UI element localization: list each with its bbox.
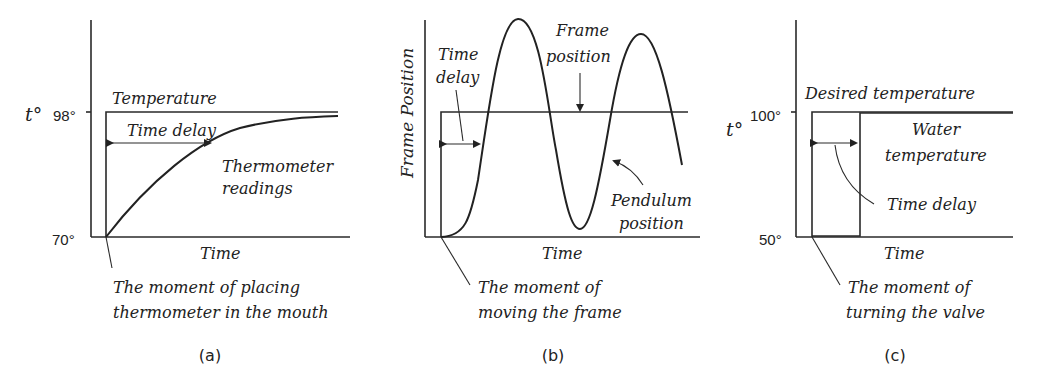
panel-b: Frame Position Time delay Frame position…: [397, 19, 700, 365]
thermometer-label-line2: readings: [222, 179, 293, 198]
time-delay-figure: t° 98° 70° Temperature Time delay Thermo…: [0, 0, 1041, 391]
panel-caption: (c): [884, 346, 905, 365]
time-delay-leader: [456, 90, 463, 141]
pendulum-arrow: [614, 161, 643, 185]
y-tick-label-top: 100°: [750, 107, 781, 124]
moment-label-line2: turning the valve: [846, 303, 985, 322]
time-delay-label-line1: Time: [438, 45, 478, 64]
moment-label-line2: thermometer in the mouth: [113, 303, 329, 322]
time-delay-label: Time delay: [887, 195, 977, 214]
x-axis-label: Time: [542, 244, 582, 263]
temperature-label: Temperature: [112, 89, 217, 108]
time-delay-label-line2: delay: [436, 68, 480, 87]
y-axis-label: t°: [25, 103, 42, 125]
frame-position-label-line2: position: [546, 47, 611, 66]
moment-label-line2: moving the frame: [478, 303, 622, 322]
frame-position-label-line1: Frame: [555, 21, 609, 40]
y-tick-label-bottom: 70°: [52, 231, 75, 248]
moment-leader-line: [812, 237, 840, 285]
moment-label-line1: The moment of: [478, 278, 603, 297]
thermometer-label-line1: Thermometer: [222, 157, 334, 176]
y-tick-label-bottom: 50°: [759, 231, 782, 248]
pendulum-label-line2: position: [619, 214, 684, 233]
desired-temperature-label: Desired temperature: [804, 84, 975, 103]
panel-a: t° 98° 70° Temperature Time delay Thermo…: [25, 20, 350, 365]
moment-leader-line: [106, 237, 112, 268]
y-axis-label: Frame Position: [397, 48, 417, 179]
y-tick-label-top: 98°: [53, 107, 76, 124]
time-delay-label: Time delay: [127, 121, 217, 140]
panel-caption: (a): [199, 346, 221, 365]
y-axis-label: t°: [726, 118, 743, 140]
moment-label-line1: The moment of placing: [113, 278, 300, 297]
time-delay-leader: [835, 145, 874, 204]
water-temperature-label-line1: Water: [912, 120, 961, 139]
panel-caption: (b): [542, 346, 565, 365]
moment-label-line1: The moment of: [848, 278, 973, 297]
moment-leader-line: [441, 237, 470, 285]
panel-c: t° 100° 50° Desired temperature Water te…: [726, 20, 1013, 365]
x-axis-label: Time: [884, 244, 924, 263]
water-temperature-label-line2: temperature: [885, 146, 987, 165]
x-axis-label: Time: [200, 244, 240, 263]
pendulum-label-line1: Pendulum: [610, 191, 692, 210]
